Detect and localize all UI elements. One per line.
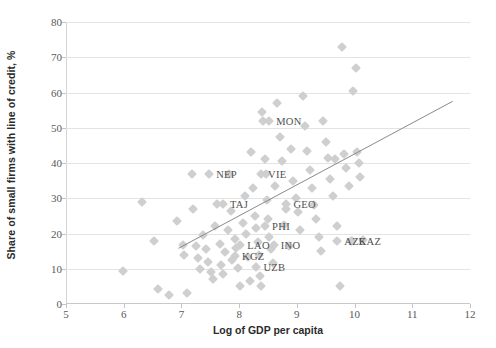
y-tick-label: 0 bbox=[22, 298, 62, 310]
y-tick-label: 20 bbox=[22, 228, 62, 240]
y-tick-label: 70 bbox=[22, 51, 62, 63]
point-label-vie: VIE bbox=[268, 169, 286, 180]
point-label-taj: TAJ bbox=[230, 198, 248, 209]
y-tick-mark bbox=[62, 163, 66, 164]
point-label-lao: LAO bbox=[247, 240, 269, 251]
y-tick-mark bbox=[62, 269, 66, 270]
x-axis-title: Log of GDP per capita bbox=[66, 324, 470, 336]
point-label-uzb: UZB bbox=[263, 261, 285, 272]
y-tick-mark bbox=[62, 198, 66, 199]
y-tick-label: 30 bbox=[22, 192, 62, 204]
y-tick-mark bbox=[62, 234, 66, 235]
x-tick-label: 10 bbox=[349, 308, 360, 320]
y-tick-label: 10 bbox=[22, 263, 62, 275]
point-label-geo: GEO bbox=[293, 198, 315, 209]
y-tick-mark bbox=[62, 22, 66, 23]
scatter-chart-figure: Share of small firms with line of credit… bbox=[0, 0, 496, 348]
y-tick-label: 50 bbox=[22, 122, 62, 134]
gridline bbox=[66, 57, 470, 58]
gridline bbox=[66, 128, 470, 129]
y-axis-title-text: Share of small firms with line of credit… bbox=[5, 50, 17, 259]
y-tick-mark bbox=[62, 93, 66, 94]
y-axis-title: Share of small firms with line of credit… bbox=[0, 0, 22, 310]
point-label-kgz: KGZ bbox=[242, 251, 264, 262]
point-label-mon: MON bbox=[276, 115, 301, 126]
x-tick-label: 9 bbox=[294, 308, 300, 320]
plot-area: MONNEPVIETAJGEOPHILAOINOAZEKAZKGZUZB bbox=[66, 22, 470, 304]
gridline bbox=[66, 93, 470, 94]
x-tick-label: 7 bbox=[179, 308, 185, 320]
gridline bbox=[66, 163, 470, 164]
gridline bbox=[66, 22, 470, 23]
y-tick-mark bbox=[62, 57, 66, 58]
x-tick-label: 11 bbox=[407, 308, 418, 320]
point-label-phi: PHI bbox=[272, 220, 290, 231]
x-tick-label: 12 bbox=[465, 308, 476, 320]
y-tick-label: 60 bbox=[22, 87, 62, 99]
y-tick-label: 80 bbox=[22, 16, 62, 28]
x-tick-label: 6 bbox=[121, 308, 127, 320]
point-label-ino: INO bbox=[281, 240, 301, 251]
y-axis-tick-labels: 01020304050607080 bbox=[20, 0, 62, 348]
point-label-nep: NEP bbox=[216, 169, 237, 180]
y-tick-mark bbox=[62, 128, 66, 129]
y-tick-label: 40 bbox=[22, 157, 62, 169]
point-label-kaz: KAZ bbox=[359, 235, 381, 246]
x-tick-label: 5 bbox=[63, 308, 69, 320]
x-tick-label: 8 bbox=[236, 308, 242, 320]
